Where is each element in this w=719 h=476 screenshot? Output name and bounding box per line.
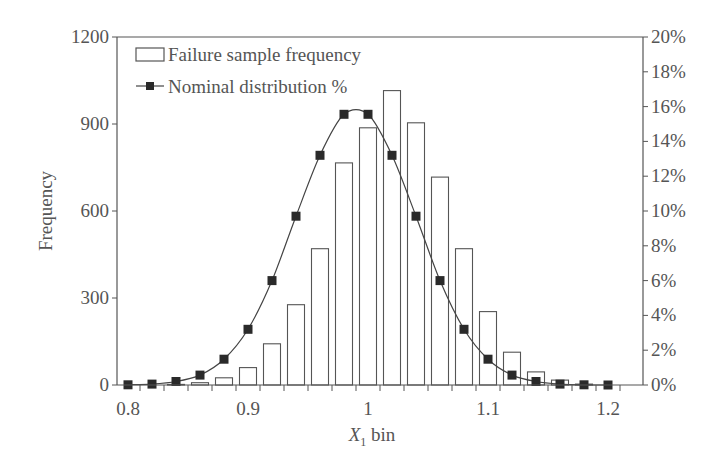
legend-bar-label: Failure sample frequency bbox=[168, 44, 362, 65]
y2-tick-label: 4% bbox=[651, 304, 677, 325]
bar bbox=[240, 368, 257, 385]
bar bbox=[264, 344, 281, 385]
bar bbox=[312, 249, 329, 385]
y2-tick-label: 12% bbox=[651, 165, 686, 186]
x-axis-title-suffix: bin bbox=[366, 424, 396, 445]
y2-tick-label: 0% bbox=[651, 374, 677, 395]
y2-tick-label: 14% bbox=[651, 130, 686, 151]
bar bbox=[288, 305, 305, 385]
y2-tick-label: 2% bbox=[651, 339, 677, 360]
square-marker-icon bbox=[436, 276, 445, 285]
y2-tick-label: 8% bbox=[651, 235, 677, 256]
bar bbox=[384, 91, 401, 385]
y-tick-label: 600 bbox=[81, 200, 110, 221]
square-marker-icon bbox=[484, 355, 493, 364]
bar bbox=[336, 163, 353, 385]
square-marker-icon bbox=[196, 371, 205, 380]
y2-tick-label: 20% bbox=[651, 26, 686, 47]
square-marker-icon bbox=[316, 151, 325, 160]
y-axis-right: 0%2%4%6%8%10%12%14%16%18%20% bbox=[643, 26, 686, 395]
x-tick-label: 1.2 bbox=[596, 398, 620, 419]
square-marker-icon bbox=[388, 151, 397, 160]
bar bbox=[480, 312, 497, 385]
legend: Failure sample frequency Nominal distrib… bbox=[136, 44, 362, 97]
bar bbox=[216, 378, 233, 385]
legend-line-label: Nominal distribution % bbox=[168, 76, 348, 97]
legend-square-marker-icon bbox=[146, 82, 154, 90]
square-marker-icon bbox=[460, 325, 469, 334]
square-marker-icon bbox=[292, 212, 301, 221]
bar-series-failure-sample-frequency bbox=[168, 91, 593, 385]
x-axis: 0.80.911.11.2 bbox=[116, 385, 643, 419]
y-tick-label: 1200 bbox=[71, 26, 109, 47]
y-tick-label: 300 bbox=[81, 287, 110, 308]
y-tick-label: 900 bbox=[81, 113, 110, 134]
square-marker-icon bbox=[412, 212, 421, 221]
square-marker-icon bbox=[148, 380, 157, 389]
y2-tick-label: 18% bbox=[651, 61, 686, 82]
square-marker-icon bbox=[268, 276, 277, 285]
bar bbox=[504, 352, 521, 385]
x-tick-label: 1.1 bbox=[476, 398, 500, 419]
bar bbox=[408, 123, 425, 385]
square-marker-icon bbox=[508, 371, 517, 380]
square-marker-icon bbox=[556, 380, 565, 389]
y-axis-left: 03006009001200 bbox=[71, 26, 117, 395]
x-tick-label: 0.8 bbox=[116, 398, 140, 419]
x-tick-label: 1 bbox=[363, 398, 373, 419]
square-marker-icon bbox=[244, 325, 253, 334]
y2-tick-label: 10% bbox=[651, 200, 686, 221]
square-marker-icon bbox=[220, 355, 229, 364]
dual-axis-chart: 0.80.911.11.2 03006009001200 0%2%4%6%8%1… bbox=[0, 0, 719, 476]
bar bbox=[456, 249, 473, 385]
y-tick-label: 0 bbox=[100, 374, 110, 395]
square-marker-icon bbox=[340, 110, 349, 119]
legend-bar-swatch bbox=[136, 48, 164, 61]
x-tick-label: 0.9 bbox=[236, 398, 260, 419]
y-axis-title: Frequency bbox=[35, 170, 56, 251]
square-marker-icon bbox=[364, 110, 373, 119]
y2-tick-label: 6% bbox=[651, 270, 677, 291]
x-axis-title: X1 bin bbox=[348, 424, 396, 449]
bar bbox=[360, 128, 377, 385]
y2-tick-label: 16% bbox=[651, 96, 686, 117]
